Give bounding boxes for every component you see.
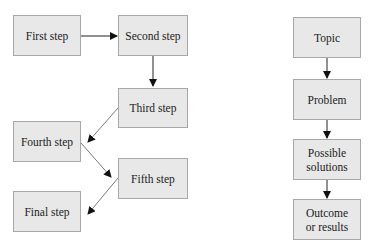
box-first-step: First step (13, 15, 81, 56)
box-third-step: Third step (118, 88, 188, 128)
diagram-canvas: First step Second step Third step Fourth… (0, 0, 372, 250)
arrow-fifth-to-final (88, 178, 118, 214)
box-outcome: Outcome or results (293, 199, 361, 240)
arrow-third-to-fourth (88, 108, 118, 142)
box-problem: Problem (293, 79, 361, 120)
box-possible-solutions: Possible solutions (293, 139, 361, 180)
arrow-fourth-to-fifth (81, 143, 111, 177)
box-topic: Topic (293, 17, 361, 58)
box-fourth-step: Fourth step (13, 121, 81, 162)
box-final-step: Final step (13, 191, 81, 232)
box-second-step: Second step (118, 15, 188, 56)
box-fifth-step: Fifth step (118, 158, 188, 199)
